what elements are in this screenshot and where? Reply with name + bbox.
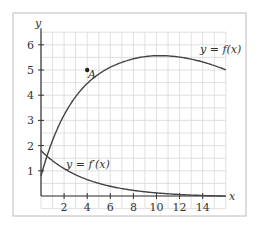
y-tick-label: 6 <box>27 39 34 52</box>
x-tick-label: 10 <box>150 201 164 214</box>
y-tick-label: 5 <box>27 64 34 77</box>
y-axis-label: y <box>34 17 42 30</box>
x-tick-label: 2 <box>61 201 68 214</box>
x-tick-label: 14 <box>196 201 210 214</box>
x-tick-label: 6 <box>107 201 114 214</box>
y-tick-label: 1 <box>27 165 34 178</box>
x-tick-label: 8 <box>130 201 137 214</box>
y-tick-label: 4 <box>27 89 34 102</box>
x-tick-label: 12 <box>173 201 187 214</box>
curve-f-prime-label: y = f′(x) <box>65 158 110 171</box>
x-axis-label: x <box>229 190 236 203</box>
y-tick-label: 3 <box>27 114 34 127</box>
x-tick-label: 4 <box>84 201 91 214</box>
curve-f-label: y = f(x) <box>199 43 241 56</box>
point-a-label: A <box>87 68 96 81</box>
graph-figure: y x y = f(x) y = f′(x) A 123456 24681012… <box>0 0 262 226</box>
y-tick-label: 2 <box>27 140 34 153</box>
